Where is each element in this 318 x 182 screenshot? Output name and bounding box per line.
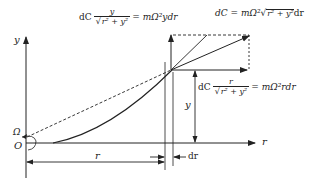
- eq2-root: r² + y²: [266, 9, 294, 18]
- r-dimension-label: r: [95, 151, 100, 161]
- eq1-denominator: √r² + y²: [94, 16, 131, 26]
- total-force-equation: dC = mΩ² √r² + y² dr: [215, 9, 304, 18]
- total-force-vector: [171, 36, 249, 70]
- dashed-chord: [27, 70, 171, 137]
- y-axis-label: y: [14, 35, 20, 45]
- horizontal-component-equation: dC r √r² + y² = mΩ²rdr: [198, 78, 296, 96]
- eq2-lhs: dC = mΩ²: [215, 9, 261, 18]
- eq3-fraction: r √r² + y²: [213, 78, 250, 96]
- eq1-numerator: y: [108, 8, 117, 16]
- r-axis-label: r: [262, 137, 267, 147]
- dr-label: dr: [188, 152, 198, 161]
- eq3-prefix: dC: [198, 83, 211, 92]
- eq1-root: r² + y²: [101, 16, 129, 26]
- eq2-suffix: dr: [294, 9, 304, 18]
- force-diagram: y r Ω O r y dr dC y √r² + y² = mΩ²ydr dC…: [0, 0, 318, 182]
- eq1-rhs: = mΩ²ydr: [132, 13, 177, 22]
- eq3-denominator: √r² + y²: [213, 86, 250, 96]
- eq3-rhs: = mΩ²rdr: [251, 83, 295, 92]
- y-dimension-label: y: [185, 100, 191, 110]
- eq3-root: r² + y²: [220, 86, 248, 96]
- omega-label: Ω: [13, 128, 20, 137]
- vertical-component-equation: dC y √r² + y² = mΩ²ydr: [79, 8, 177, 26]
- tangent-line: [171, 35, 207, 70]
- eq3-numerator: r: [227, 78, 235, 86]
- origin-label: O: [14, 141, 22, 151]
- eq1-prefix: dC: [79, 13, 92, 22]
- rotating-curve: [53, 70, 172, 143]
- eq1-fraction: y √r² + y²: [94, 8, 131, 26]
